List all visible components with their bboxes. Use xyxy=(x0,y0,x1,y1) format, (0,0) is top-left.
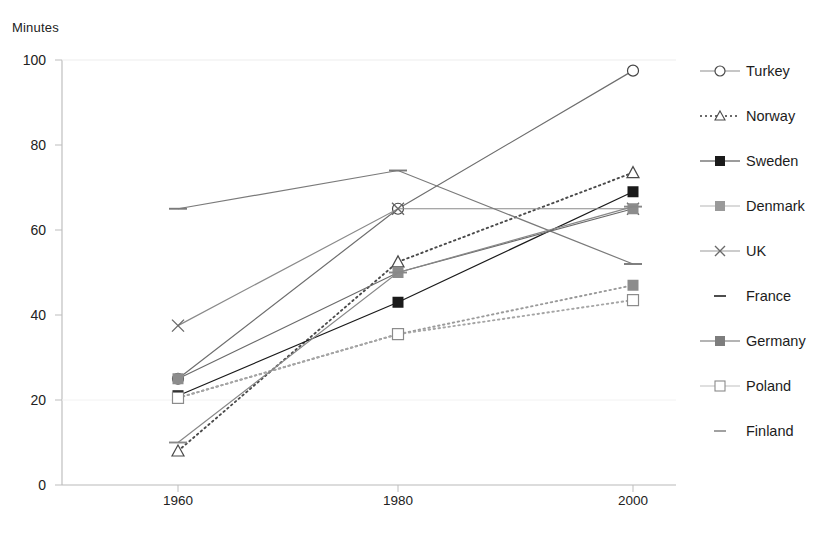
point-norway-1980 xyxy=(392,256,404,267)
series-line-denmark xyxy=(178,285,633,398)
legend-key-poland xyxy=(698,378,742,394)
series-line-poland xyxy=(178,300,633,398)
legend-key-uk xyxy=(698,243,742,259)
legend-label-france: France xyxy=(742,288,791,304)
legend-label-finland: Finland xyxy=(742,423,794,439)
series-line-finland xyxy=(178,207,633,443)
point-poland-2000 xyxy=(628,295,639,306)
legend-item-norway[interactable]: Norway xyxy=(698,93,825,138)
legend-item-germany[interactable]: Germany xyxy=(698,318,825,363)
point-turkey-2000 xyxy=(628,65,639,76)
legend: Turkey Norway Sweden Denmark UK xyxy=(698,48,825,453)
legend-label-sweden: Sweden xyxy=(742,153,798,169)
legend-key-norway xyxy=(698,108,742,124)
series-finland xyxy=(169,207,642,443)
legend-item-sweden[interactable]: Sweden xyxy=(698,138,825,183)
legend-item-uk[interactable]: UK xyxy=(698,228,825,273)
line-chart: Minutes 100 80 60 40 20 0 1960 1980 2000 xyxy=(0,0,825,533)
legend-item-finland[interactable]: Finland xyxy=(698,408,825,453)
series-line-sweden xyxy=(178,192,633,396)
legend-label-germany: Germany xyxy=(742,333,806,349)
legend-item-turkey[interactable]: Turkey xyxy=(698,48,825,93)
series-line-france xyxy=(178,171,633,265)
legend-key-germany xyxy=(698,333,742,349)
point-sweden-1980 xyxy=(393,297,404,308)
point-uk-1960 xyxy=(172,320,184,332)
point-germany-1960 xyxy=(173,373,184,384)
legend-label-norway: Norway xyxy=(742,108,795,124)
point-denmark-2000 xyxy=(628,280,639,291)
legend-item-poland[interactable]: Poland xyxy=(698,363,825,408)
legend-label-denmark: Denmark xyxy=(742,198,805,214)
series-germany xyxy=(173,203,639,384)
legend-key-finland xyxy=(698,423,742,439)
legend-key-turkey xyxy=(698,63,742,79)
point-poland-1960 xyxy=(173,392,184,403)
legend-label-poland: Poland xyxy=(742,378,791,394)
legend-item-france[interactable]: France xyxy=(698,273,825,318)
legend-label-uk: UK xyxy=(742,243,766,259)
series-line-germany xyxy=(178,209,633,379)
point-norway-2000 xyxy=(627,167,639,178)
legend-item-denmark[interactable]: Denmark xyxy=(698,183,825,228)
legend-key-france xyxy=(698,288,742,304)
series-norway xyxy=(172,167,639,456)
legend-key-denmark xyxy=(698,198,742,214)
series-poland xyxy=(173,295,639,404)
point-poland-1980 xyxy=(393,329,404,340)
legend-key-sweden xyxy=(698,153,742,169)
series-line-norway xyxy=(178,173,633,451)
point-germany-2000 xyxy=(628,203,639,214)
legend-label-turkey: Turkey xyxy=(742,63,790,79)
point-sweden-2000 xyxy=(628,186,639,197)
series-layer xyxy=(169,65,642,456)
series-france xyxy=(169,171,642,265)
series-sweden xyxy=(173,186,639,401)
